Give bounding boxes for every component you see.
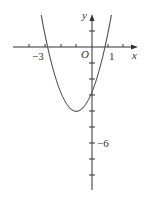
parabola-graph: y x O −3 1 −6 bbox=[0, 0, 146, 199]
x-intercept-1-label: 1 bbox=[109, 50, 115, 62]
y-intercept-neg6-label: −6 bbox=[97, 137, 109, 149]
y-axis-arrow-icon bbox=[90, 14, 95, 21]
origin-label: O bbox=[81, 48, 89, 60]
x-axis-label: x bbox=[131, 49, 137, 61]
y-axis-label: y bbox=[81, 9, 87, 21]
parabola-curve bbox=[41, 15, 111, 111]
x-intercept-neg3-label: −3 bbox=[32, 50, 44, 62]
